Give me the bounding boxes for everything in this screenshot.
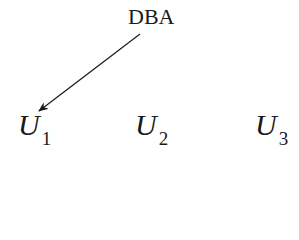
u2-label: U	[135, 108, 157, 141]
u3-subscript: 3	[279, 128, 289, 149]
u3-label: U	[255, 108, 277, 141]
user-node-u3: U3	[255, 108, 288, 150]
u1-label: U	[18, 108, 40, 141]
user-node-u1: U1	[18, 108, 51, 150]
user-node-u2: U2	[135, 108, 168, 150]
u2-subscript: 2	[159, 128, 169, 149]
u1-subscript: 1	[42, 128, 52, 149]
